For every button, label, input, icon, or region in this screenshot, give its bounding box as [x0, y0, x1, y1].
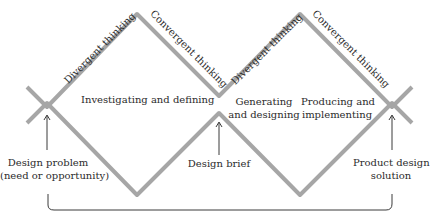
stage-line: Producing and: [301, 95, 373, 108]
milestone-line: Product design: [353, 156, 429, 169]
milestone-product-solution: Product design solution: [353, 156, 429, 182]
arrow-icon-design-brief: [216, 122, 222, 155]
stage-line: and designing: [228, 108, 300, 121]
stage-producing-implementing: Producing and implementing: [301, 95, 373, 121]
milestone-line: (need or opportunity): [0, 169, 96, 182]
milestone-design-brief: Design brief: [180, 157, 258, 170]
stage-generating-designing: Generating and designing: [228, 95, 300, 121]
stage-line: Generating: [228, 95, 300, 108]
stage-investigating-defining: Investigating and defining: [81, 93, 214, 106]
arrow-icon-product-solution: [389, 115, 395, 150]
feedback-bracket: [48, 194, 392, 210]
milestone-design-problem: Design problem (need or opportunity): [0, 156, 96, 182]
arrow-icon-design-problem: [44, 115, 50, 150]
milestone-line: Design problem: [0, 156, 96, 169]
stage-line: implementing: [301, 108, 373, 121]
milestone-line: solution: [353, 169, 429, 182]
